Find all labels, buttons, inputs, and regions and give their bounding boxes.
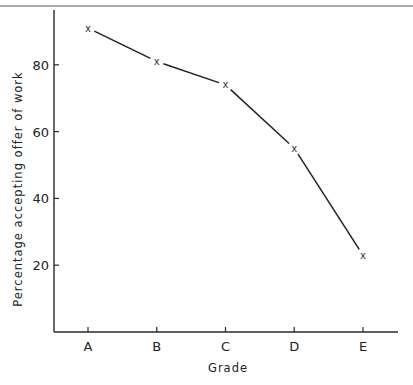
x-tick-label: C xyxy=(221,339,230,354)
data-line-segment xyxy=(231,90,289,144)
line-chart: 20406080 ABCDE xxxxx Grade Percentage ac… xyxy=(0,0,413,385)
y-ticks: 20406080 xyxy=(32,58,59,273)
x-tick-label: E xyxy=(359,339,367,354)
x-marker-icon: x xyxy=(291,143,297,154)
x-marker-icon: x xyxy=(222,79,228,90)
data-line-segment xyxy=(94,31,150,58)
x-tick-label: B xyxy=(152,339,161,354)
x-marker-icon: x xyxy=(85,23,91,34)
x-marker-icon: x xyxy=(154,56,160,67)
y-tick-label: 80 xyxy=(32,58,49,73)
x-marker-icon: x xyxy=(360,250,366,261)
axes xyxy=(54,10,398,332)
data-markers: xxxxx xyxy=(85,23,366,261)
y-tick-label: 20 xyxy=(32,258,49,273)
x-axis-title: Grade xyxy=(208,361,248,375)
y-tick-label: 60 xyxy=(32,125,49,140)
x-tick-label: D xyxy=(289,339,299,354)
x-ticks: ABCDE xyxy=(84,327,368,354)
y-tick-label: 40 xyxy=(32,191,49,206)
data-line-segment xyxy=(298,154,359,249)
data-line-segment xyxy=(163,64,218,83)
y-axis-title: Percentage accepting offer of work xyxy=(11,71,25,307)
x-tick-label: A xyxy=(84,339,93,354)
